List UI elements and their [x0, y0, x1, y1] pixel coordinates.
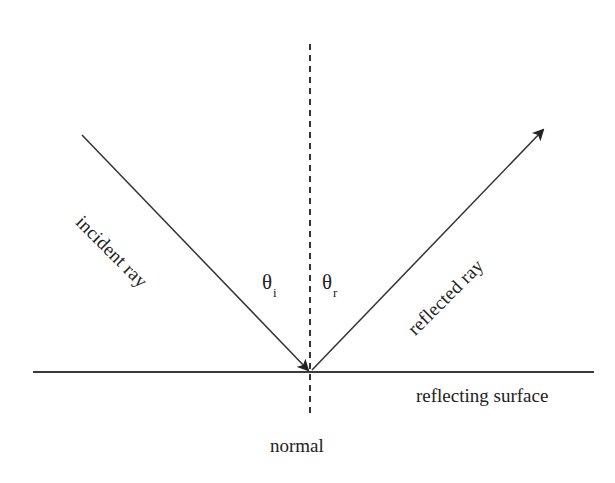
theta-i-subscript: i [273, 285, 277, 300]
angle-of-reflection-label: θr [322, 272, 336, 296]
reflected-ray-line [312, 130, 543, 370]
theta-i-symbol: θ [262, 270, 272, 294]
angle-of-incidence-label: θi [262, 272, 276, 296]
theta-r-symbol: θ [322, 270, 332, 294]
normal-label: normal [270, 436, 324, 455]
theta-r-subscript: r [333, 285, 337, 300]
reflection-diagram: incident ray reflected ray θi θr reflect… [0, 0, 615, 483]
reflecting-surface-label: reflecting surface [416, 386, 548, 405]
